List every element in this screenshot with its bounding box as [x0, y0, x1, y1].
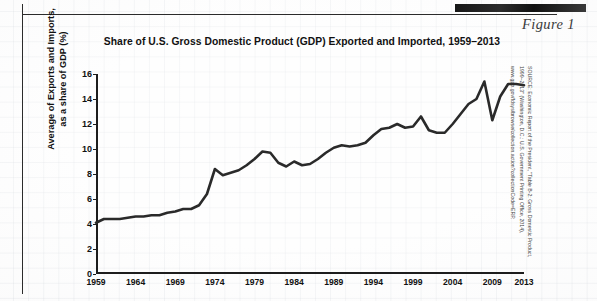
- data-line-chart: [96, 74, 524, 274]
- x-tick-label: 1984: [285, 277, 304, 287]
- y-tick-label: 4: [87, 219, 92, 229]
- x-tick-label: 1999: [403, 277, 422, 287]
- x-tick-label: 1989: [324, 277, 343, 287]
- y-tick-label: 6: [87, 194, 92, 204]
- y-tick-label: 12: [82, 119, 92, 129]
- chart-area: Average of Exports and Imports, as a sha…: [30, 62, 530, 294]
- y-tick-label: 10: [82, 144, 92, 154]
- y-tick-label: 16: [82, 69, 92, 79]
- y-tick-label: 14: [82, 94, 92, 104]
- x-tick-label: 1974: [205, 277, 224, 287]
- plot-frame: 0246810121416 19591964196919741979198419…: [96, 74, 524, 274]
- x-tick-label: 1964: [126, 277, 145, 287]
- x-tick-label: 2004: [443, 277, 462, 287]
- y-axis-title: Average of Exports and Imports, as a sha…: [46, 0, 69, 174]
- x-tick-label: 1959: [86, 277, 105, 287]
- x-tick-label: 2009: [483, 277, 502, 287]
- y-tick-mark: [93, 274, 97, 275]
- figure-page: Figure 1 Share of U.S. Gross Domestic Pr…: [0, 0, 597, 301]
- x-tick-label: 1994: [364, 277, 383, 287]
- y-tick-label: 8: [87, 169, 92, 179]
- y-tick-label: 2: [87, 244, 92, 254]
- figure-label: Figure 1: [522, 16, 575, 33]
- x-tick-label: 2013: [514, 277, 533, 287]
- x-tick-label: 1969: [166, 277, 185, 287]
- header-horizontal-rule: [22, 14, 557, 15]
- header-black-bar: [455, 4, 586, 12]
- data-series-line: [96, 82, 524, 223]
- chart-title: Share of U.S. Gross Domestic Product (GD…: [22, 36, 582, 47]
- left-vertical-rule: [22, 4, 23, 294]
- x-tick-label: 1979: [245, 277, 264, 287]
